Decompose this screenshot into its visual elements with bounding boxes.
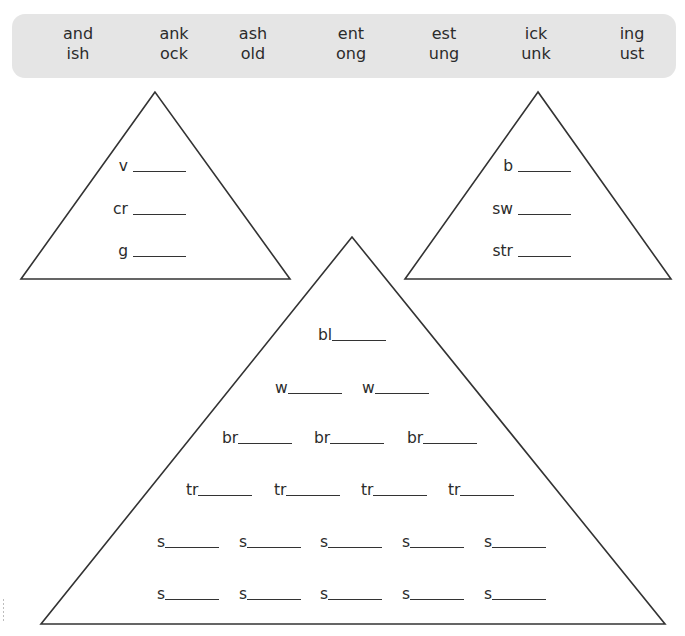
- blank-line[interactable]: [247, 585, 301, 600]
- fill-in-blank[interactable]: br: [407, 429, 477, 447]
- copyright-mark: [2, 598, 5, 622]
- blank-prefix: w: [362, 379, 375, 397]
- blank-line[interactable]: [375, 379, 429, 394]
- fill-in-blank[interactable]: g: [88, 242, 186, 260]
- blank-line[interactable]: [518, 242, 571, 257]
- blank-line[interactable]: [133, 157, 186, 172]
- blank-prefix: s: [239, 585, 247, 603]
- blank-line[interactable]: [410, 533, 464, 548]
- blank-line[interactable]: [133, 242, 186, 257]
- blank-line[interactable]: [423, 429, 477, 444]
- fill-in-blank[interactable]: s: [320, 533, 382, 551]
- blank-line[interactable]: [330, 429, 384, 444]
- blank-line[interactable]: [373, 481, 427, 496]
- blank-line[interactable]: [460, 481, 514, 496]
- blank-prefix: s: [484, 585, 492, 603]
- blank-line[interactable]: [198, 481, 252, 496]
- blank-prefix: v: [88, 157, 128, 175]
- blank-line[interactable]: [328, 533, 382, 548]
- fill-in-blank[interactable]: s: [157, 585, 219, 603]
- blank-prefix: br: [407, 429, 423, 447]
- blank-prefix: b: [473, 157, 513, 175]
- fill-in-blank[interactable]: br: [222, 429, 292, 447]
- blank-prefix: s: [402, 585, 410, 603]
- blank-prefix: str: [473, 242, 513, 260]
- fill-in-blank[interactable]: s: [402, 533, 464, 551]
- blank-prefix: s: [484, 533, 492, 551]
- blank-line[interactable]: [133, 200, 186, 215]
- fill-in-blank[interactable]: str: [473, 242, 571, 260]
- fill-in-blank[interactable]: sw: [473, 200, 571, 218]
- fill-in-blank[interactable]: w: [362, 379, 429, 397]
- fill-in-blank[interactable]: s: [320, 585, 382, 603]
- fill-in-blank[interactable]: s: [484, 533, 546, 551]
- blank-line[interactable]: [288, 379, 342, 394]
- blank-line[interactable]: [247, 533, 301, 548]
- fill-in-blank[interactable]: s: [157, 533, 219, 551]
- blank-line[interactable]: [332, 326, 386, 341]
- blank-prefix: br: [222, 429, 238, 447]
- blank-prefix: s: [320, 585, 328, 603]
- blank-prefix: w: [275, 379, 288, 397]
- blank-prefix: tr: [186, 481, 198, 499]
- fill-in-blank[interactable]: bl: [318, 326, 386, 344]
- fill-in-blank[interactable]: tr: [274, 481, 340, 499]
- fill-in-blank[interactable]: s: [239, 533, 301, 551]
- blank-prefix: br: [314, 429, 330, 447]
- blank-prefix: s: [402, 533, 410, 551]
- blank-line[interactable]: [518, 157, 571, 172]
- blank-prefix: sw: [473, 200, 513, 218]
- blank-prefix: s: [157, 585, 165, 603]
- blank-prefix: s: [239, 533, 247, 551]
- fill-in-blank[interactable]: br: [314, 429, 384, 447]
- blank-prefix: s: [157, 533, 165, 551]
- blank-prefix: tr: [361, 481, 373, 499]
- fill-in-blank[interactable]: tr: [448, 481, 514, 499]
- blank-line[interactable]: [165, 585, 219, 600]
- fill-in-blank[interactable]: tr: [186, 481, 252, 499]
- fill-in-blank[interactable]: s: [484, 585, 546, 603]
- blank-prefix: tr: [274, 481, 286, 499]
- blank-prefix: cr: [88, 200, 128, 218]
- blank-line[interactable]: [492, 533, 546, 548]
- fill-in-blank[interactable]: v: [88, 157, 186, 175]
- fill-in-blank[interactable]: tr: [361, 481, 427, 499]
- blank-line[interactable]: [492, 585, 546, 600]
- fill-in-blank[interactable]: w: [275, 379, 342, 397]
- fill-in-blank[interactable]: s: [402, 585, 464, 603]
- blank-line[interactable]: [328, 585, 382, 600]
- blank-prefix: g: [88, 242, 128, 260]
- blank-line[interactable]: [286, 481, 340, 496]
- fill-in-blank[interactable]: s: [239, 585, 301, 603]
- blank-prefix: tr: [448, 481, 460, 499]
- fill-in-blank[interactable]: cr: [88, 200, 186, 218]
- blank-prefix: s: [320, 533, 328, 551]
- blank-line[interactable]: [238, 429, 292, 444]
- blank-line[interactable]: [518, 200, 571, 215]
- blank-prefix: bl: [318, 326, 332, 344]
- blank-line[interactable]: [165, 533, 219, 548]
- blank-line[interactable]: [410, 585, 464, 600]
- fill-in-blank[interactable]: b: [473, 157, 571, 175]
